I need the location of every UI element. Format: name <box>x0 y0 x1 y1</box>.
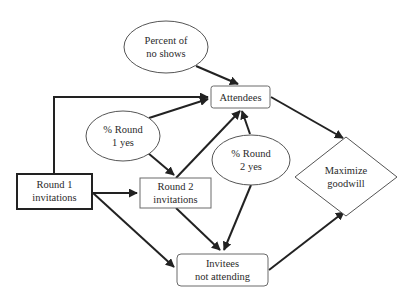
influence-diagram: Percent of no shows Attendees % Round 1 … <box>0 0 418 302</box>
node-maximize-goodwill: Maximize goodwill <box>295 137 397 216</box>
node-label: no shows <box>146 48 185 59</box>
node-round1-invitations: Round 1 invitations <box>17 174 92 209</box>
node-label: 1 yes <box>112 137 134 148</box>
edge-noshows-attendees <box>196 66 238 84</box>
edge-r1yes-attendees <box>149 99 208 118</box>
node-round2-invitations: Round 2 invitations <box>140 178 211 208</box>
node-label: Round 2 <box>158 181 194 192</box>
node-label: Attendees <box>220 92 262 103</box>
edge-r2yes-attendees <box>242 111 250 134</box>
edge-notattending-goodwill <box>269 212 344 270</box>
node-label: Invitees <box>206 258 239 269</box>
node-label: not attending <box>195 271 251 282</box>
node-label: Maximize <box>325 165 368 176</box>
node-label: % Round <box>231 148 271 159</box>
edge-r2inv-notattending <box>176 208 220 250</box>
node-label: invitations <box>32 192 76 203</box>
node-label: % Round <box>103 124 143 135</box>
edges <box>54 66 344 270</box>
diagram-svg: Percent of no shows Attendees % Round 1 … <box>0 0 418 302</box>
node-round2-yes: % Round 2 yes <box>212 135 290 185</box>
node-percent-no-shows: Percent of no shows <box>124 21 208 73</box>
node-label: Percent of <box>145 35 188 46</box>
edge-r1yes-r2inv <box>148 153 174 175</box>
node-invitees-not-attending: Invitees not attending <box>177 254 268 286</box>
edge-r2yes-notattending <box>224 185 251 250</box>
node-label: 2 yes <box>240 161 262 172</box>
node-label: invitations <box>153 194 197 205</box>
node-attendees: Attendees <box>211 86 270 108</box>
edge-attendees-goodwill <box>271 97 343 138</box>
node-label: Round 1 <box>37 179 73 190</box>
node-round1-yes: % Round 1 yes <box>86 111 160 161</box>
node-label: goodwill <box>327 178 364 189</box>
